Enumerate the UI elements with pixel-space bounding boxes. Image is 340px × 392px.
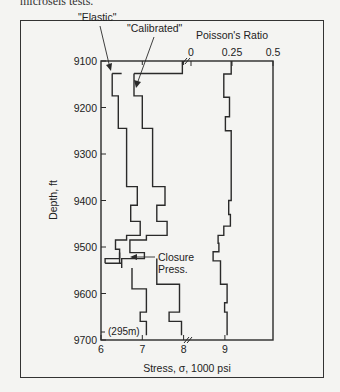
plot-axes	[101, 58, 273, 343]
chart-svg: 9100920093009400950096009700678900.250.5…	[0, 0, 340, 392]
x-tick-label: 7	[139, 343, 145, 355]
x-axis-label: Stress, σ, 1000 psi	[143, 362, 231, 374]
y-axis-label: Depth, ft	[47, 180, 59, 220]
x2-tick-label: 0.25	[222, 46, 243, 58]
x-tick-label: 6	[98, 343, 104, 355]
annotation-295m: (295m)	[108, 326, 140, 337]
arrow-head-icon	[134, 80, 141, 88]
plot-series	[105, 61, 231, 335]
annotation-calibrated: "Calibrated"	[127, 22, 183, 34]
annotation-closure-line2: Press.	[158, 263, 188, 275]
plot-labels: 9100920093009400950096009700678900.250.5…	[47, 11, 280, 374]
y-tick-label: 9500	[74, 241, 98, 253]
x-tick-label: 8	[181, 343, 187, 355]
arrow-head-icon	[106, 63, 112, 71]
y-tick-label: 9200	[74, 102, 98, 114]
y-tick-label: 9300	[74, 148, 98, 160]
x2-tick-label: 0	[188, 46, 194, 58]
series-connector	[112, 61, 182, 74]
series-calibrated	[122, 74, 167, 268]
y-tick-label: 9400	[74, 195, 98, 207]
y-tick-label: 9600	[74, 288, 98, 300]
x2-tick-label: 0.5	[266, 46, 281, 58]
plot-box	[101, 61, 273, 340]
annotation-closure-line1: Closure	[158, 251, 194, 263]
series-elastic	[105, 74, 140, 264]
annotation-elastic: "Elastic"	[78, 11, 117, 23]
x2-axis-label: Poisson's Ratio	[196, 29, 268, 41]
series-poisson-s-ratio	[213, 61, 231, 335]
y-tick-label: 9100	[74, 55, 98, 67]
x-tick-label: 9	[222, 343, 228, 355]
y-tick-label: 9700	[74, 334, 98, 346]
